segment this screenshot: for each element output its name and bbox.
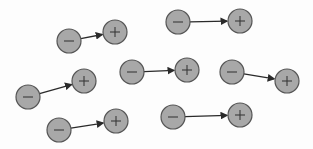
dipole	[161, 103, 252, 129]
arrow-icon	[190, 21, 227, 22]
dipole	[16, 69, 96, 109]
positive-charge-icon	[103, 20, 127, 44]
positive-charge-icon	[228, 9, 252, 33]
negative-charge-icon	[220, 60, 244, 84]
positive-charge-icon	[275, 69, 299, 93]
positive-charge-icon	[104, 109, 128, 133]
dipole-canvas	[0, 0, 313, 149]
arrow-icon	[40, 85, 72, 94]
arrow-icon	[244, 74, 274, 79]
dipole	[120, 58, 199, 84]
dipole	[166, 9, 252, 34]
dipole	[57, 20, 127, 53]
positive-charge-icon	[228, 103, 252, 127]
arrow-icon	[144, 70, 174, 71]
positive-charge-icon	[72, 69, 96, 93]
negative-charge-icon	[161, 105, 185, 129]
positive-charge-icon	[175, 58, 199, 82]
arrow-icon	[71, 123, 103, 128]
dipole	[47, 109, 128, 142]
dipole-diagram	[0, 0, 313, 149]
negative-charge-icon	[16, 85, 40, 109]
dipole	[220, 60, 299, 93]
negative-charge-icon	[47, 118, 71, 142]
arrow-icon	[185, 115, 227, 116]
negative-charge-icon	[166, 10, 190, 34]
arrow-icon	[81, 34, 102, 38]
negative-charge-icon	[57, 29, 81, 53]
negative-charge-icon	[120, 60, 144, 84]
